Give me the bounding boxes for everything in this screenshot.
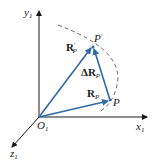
point-p: [109, 99, 112, 102]
vector-r-prime-label: R′P: [66, 42, 77, 55]
z-axis-label: z1: [10, 148, 18, 161]
vector-diagram: y1 x1 z1 O1 P′ P R′P ΔRP RP: [0, 0, 164, 164]
x-axis-label: x1: [136, 121, 144, 134]
vector-r-label: RP: [87, 88, 99, 101]
diagram-graphics: [0, 0, 164, 164]
point-p-prime-label: P′: [94, 33, 102, 44]
origin-label: O1: [37, 120, 48, 133]
z-axis: [12, 117, 39, 147]
point-p-prime: [92, 46, 95, 49]
point-p-label: P: [113, 97, 120, 108]
vector-delta-r-label: ΔRP: [81, 67, 100, 80]
y-axis-label: y1: [24, 7, 32, 20]
